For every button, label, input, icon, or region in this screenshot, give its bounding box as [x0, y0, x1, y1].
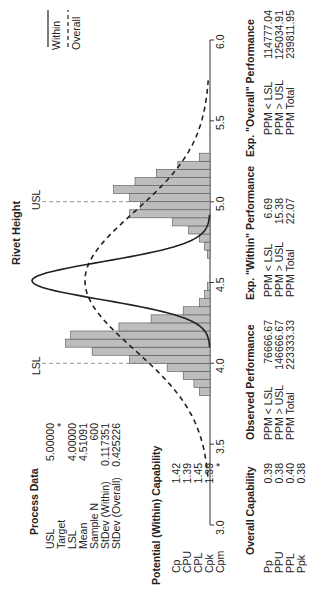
row-value: * — [214, 463, 226, 495]
tick: 3.5 — [214, 439, 226, 454]
chart-title: Rivet Height — [10, 201, 22, 265]
row-value: 0.425226 — [110, 423, 122, 495]
row-label: PPM Total — [284, 87, 296, 135]
capability-report: Rivet Height LSL USL Within Overall 3.0 … — [0, 0, 322, 595]
exp-within-header: Exp. "Within" Performance — [244, 166, 256, 300]
tick: 3.0 — [214, 520, 226, 535]
potential-header: Potential (Within) Capability — [150, 446, 162, 585]
process-data-header: Process Data — [28, 468, 40, 535]
row-label: PPM Total — [284, 392, 296, 440]
tick: 4.5 — [214, 277, 226, 292]
row-value: 223333.33 — [284, 320, 296, 385]
tick: 5.0 — [214, 196, 226, 211]
tick: 6.0 — [214, 34, 226, 49]
tick: 5.5 — [214, 115, 226, 130]
observed-header: Observed Performance — [244, 324, 256, 440]
row-label: PPM Total — [284, 249, 296, 297]
tick: 4.0 — [214, 358, 226, 373]
legend-within: Within — [50, 21, 62, 50]
exp-overall-header: Exp. "Overall" Performance — [244, 19, 256, 157]
row-label: Cpm — [214, 551, 226, 573]
usl-label: USL — [30, 190, 42, 210]
row-value: 0.38 — [295, 463, 307, 495]
legend-overall: Overall — [70, 17, 82, 50]
lsl-label: LSL — [30, 356, 42, 375]
row-value: 239811.95 — [284, 10, 296, 75]
overall-header: Overall Capability — [244, 466, 256, 555]
row-value: 22.07 — [284, 198, 296, 240]
row-label: Ppk — [295, 555, 307, 573]
